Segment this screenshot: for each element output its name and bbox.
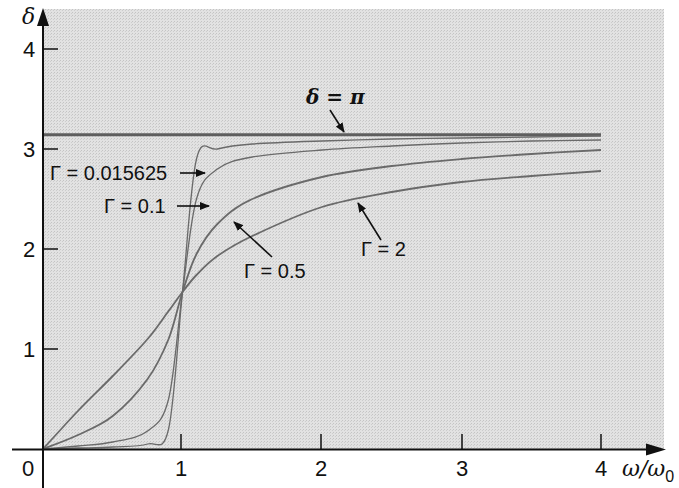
x-tick-label-4: 4 xyxy=(595,456,607,481)
x-tick-label-1: 1 xyxy=(175,456,187,481)
y-axis-label: δ xyxy=(22,4,35,29)
annotation-gamma-2: Γ = 2 xyxy=(361,238,406,260)
plot-area xyxy=(43,9,664,449)
y-tick-label-1: 1 xyxy=(23,337,35,362)
x-tick-label-3: 3 xyxy=(456,456,468,481)
chart: 1 2 3 4 0 1 2 3 4 δ ω/ω0 δ = π Γ = 0.015… xyxy=(0,0,679,488)
annotation-delta-pi: δ = π xyxy=(305,85,365,109)
x-axis-label-subscript: 0 xyxy=(665,468,674,485)
annotation-gamma-01: Γ = 0.1 xyxy=(104,195,166,217)
annotation-gamma-0015625: Γ = 0.015625 xyxy=(50,162,167,184)
x-axis-label-main: ω/ω xyxy=(622,456,665,481)
x-tick-label-2: 2 xyxy=(315,456,327,481)
y-tick-label-2: 2 xyxy=(23,237,35,262)
y-tick-label-3: 3 xyxy=(23,137,35,162)
y-tick-label-4: 4 xyxy=(23,37,35,62)
origin-label: 0 xyxy=(22,456,34,481)
annotation-gamma-05: Γ = 0.5 xyxy=(244,260,306,282)
x-axis-label: ω/ω0 xyxy=(622,456,674,485)
